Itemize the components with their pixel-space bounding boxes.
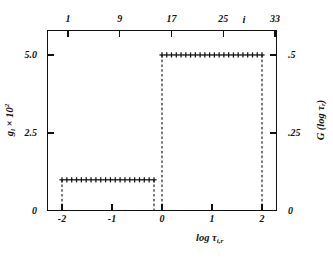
top-tick-label: 17 bbox=[167, 14, 177, 24]
bottom-tick-label: -2 bbox=[58, 214, 66, 224]
top-tick-mark bbox=[119, 30, 120, 37]
left-axis-title: gi × 102 bbox=[3, 104, 16, 137]
bottom-tick-label: -1 bbox=[108, 214, 116, 224]
left-axis-title-sup: 2 bbox=[3, 104, 11, 108]
top-tick-mark bbox=[223, 30, 224, 37]
left-axis-title-sub: i bbox=[9, 129, 17, 131]
top-tick-label: 25 bbox=[218, 14, 228, 24]
figure-root: 19172533 -2-1012 02.55.0 0.25.5 i gi × 1… bbox=[0, 0, 333, 259]
bottom-tick-mark bbox=[61, 204, 62, 211]
bottom-tick-label: 2 bbox=[260, 214, 265, 224]
right-tick-mark bbox=[270, 132, 277, 133]
bottom-tick-mark bbox=[261, 204, 262, 211]
top-tick-label: 33 bbox=[270, 14, 280, 24]
left-tick-mark bbox=[47, 132, 54, 133]
top-tick-label: 9 bbox=[117, 14, 122, 24]
left-axis-title-main: g bbox=[4, 131, 15, 136]
top-tick-mark bbox=[67, 30, 68, 37]
bottom-tick-label: 1 bbox=[210, 214, 215, 224]
top-tick-mark bbox=[171, 30, 172, 37]
right-tick-mark bbox=[270, 54, 277, 55]
plot-frame bbox=[47, 30, 277, 211]
bottom-axis-title-main: log bbox=[196, 232, 212, 243]
right-axis-title-main: G (log τ bbox=[315, 106, 326, 140]
right-axis-title-sub: r bbox=[319, 103, 327, 106]
right-tick-label: .25 bbox=[288, 128, 301, 138]
top-tick-label: 1 bbox=[66, 14, 71, 24]
left-tick-label: 5.0 bbox=[0, 50, 37, 60]
right-axis-title-tail: ) bbox=[315, 100, 326, 104]
bottom-tick-label: 0 bbox=[160, 214, 165, 224]
right-tick-label: .5 bbox=[288, 50, 296, 60]
bottom-tick-mark bbox=[211, 204, 212, 211]
bottom-tick-mark bbox=[111, 204, 112, 211]
bottom-axis-title-sub: i,r bbox=[217, 237, 224, 245]
left-axis-title-tail: × 10 bbox=[4, 107, 15, 129]
left-tick-label: 0 bbox=[0, 206, 37, 216]
bottom-axis-title: log τi,r bbox=[196, 232, 223, 245]
right-tick-label: 0 bbox=[288, 206, 293, 216]
right-axis-title: G (log τr) bbox=[315, 100, 328, 141]
left-tick-mark bbox=[47, 54, 54, 55]
top-tick-mark bbox=[274, 30, 275, 37]
top-axis-title: i bbox=[243, 14, 246, 25]
bottom-tick-mark bbox=[161, 204, 162, 211]
